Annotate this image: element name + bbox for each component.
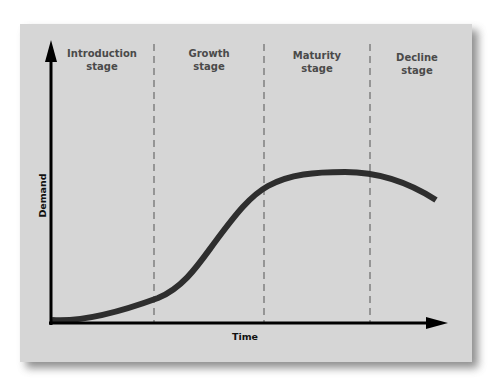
- stage-maturity: Maturity stage: [267, 49, 367, 75]
- demand-curve: [52, 172, 436, 320]
- x-axis-arrow-icon: [426, 317, 448, 329]
- x-axis-label: Time: [225, 331, 265, 342]
- y-axis-label: Demand: [37, 166, 48, 226]
- stage-decline: Decline stage: [367, 51, 467, 77]
- stage-growth: Growth stage: [159, 47, 259, 73]
- stage-introduction: Introduction stage: [52, 47, 152, 73]
